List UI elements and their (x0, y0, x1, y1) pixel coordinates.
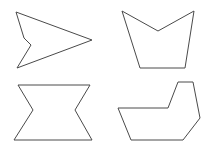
shape-canvas (0, 0, 210, 149)
